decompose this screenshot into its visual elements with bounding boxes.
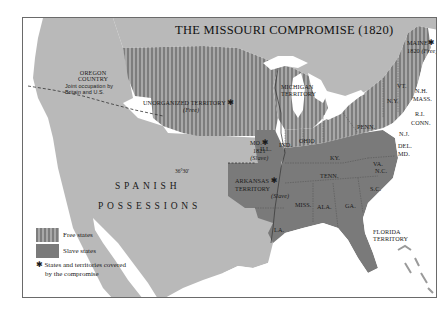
state-label-md: MD. xyxy=(398,151,410,157)
state-label-sc: S.C. xyxy=(370,186,381,192)
state-label-mass: MASS. xyxy=(413,96,432,102)
spanish-possessions-line2: POSSESSIONS xyxy=(98,202,201,212)
state-label-penn: PENN. xyxy=(357,124,375,130)
legend-compromise-note: ✱ States and territories covered by the … xyxy=(36,260,126,279)
state-label-ky: KY. xyxy=(330,155,340,161)
compromise-star-icon: ✱ xyxy=(227,98,234,107)
maine-label: MAINE✱ 1820 (Free) xyxy=(407,38,437,54)
compromise-star-icon: ✱ xyxy=(428,38,435,47)
state-label-ind: IND. xyxy=(279,142,292,148)
state-label-conn: CONN. xyxy=(411,120,431,126)
state-label-ny: N.Y. xyxy=(387,98,399,104)
compromise-star-icon: ✱ xyxy=(262,138,269,147)
missouri-label: MO.✱ 1821 (Slave) xyxy=(250,138,269,161)
state-label-nc: N.C. xyxy=(375,168,387,174)
arkansas-territory-label: ARKANSAS ✱ TERRITORY (Slave) xyxy=(235,176,289,199)
legend-slave: Slave states xyxy=(36,244,126,258)
state-label-tenn: TENN. xyxy=(320,173,339,179)
slave-state-swatch xyxy=(36,244,59,258)
state-label-nj: N.J. xyxy=(399,131,409,137)
state-label-ala: ALA. xyxy=(317,204,332,210)
state-label-nh: N.H. xyxy=(415,88,427,94)
spanish-possessions-line1: SPANISH xyxy=(115,182,180,192)
map-title: THE MISSOURI COMPROMISE (1820) xyxy=(175,24,393,37)
state-label-la: LA. xyxy=(274,227,284,233)
free-state-swatch xyxy=(36,228,59,242)
compromise-star-icon: ✱ xyxy=(271,176,278,185)
oregon-label: OREGON COUNTRY Joint occupation by Brita… xyxy=(73,70,113,95)
unorganized-status: (Free) xyxy=(183,107,199,113)
map-frame: THE MISSOURI COMPROMISE (1820) OREGON CO… xyxy=(22,17,437,298)
state-label-ohio: OHIO xyxy=(299,138,315,144)
state-label-del: DEL. xyxy=(398,143,412,149)
state-label-ri: R.I. xyxy=(415,111,425,117)
legend-free: Free states xyxy=(36,228,126,242)
state-label-ga: GA. xyxy=(345,203,356,209)
michigan-territory-label: MICHIGAN TERRITORY xyxy=(281,83,316,97)
latitude-label: 36°30' xyxy=(175,169,189,174)
state-label-miss: MISS. xyxy=(295,202,312,208)
compromise-star-icon: ✱ xyxy=(36,260,43,269)
map-legend: Free states Slave states ✱ States and te… xyxy=(36,228,126,279)
state-label-vt: VT. xyxy=(397,83,407,89)
florida-territory-label: FLORIDA TERRITORY xyxy=(373,228,408,243)
